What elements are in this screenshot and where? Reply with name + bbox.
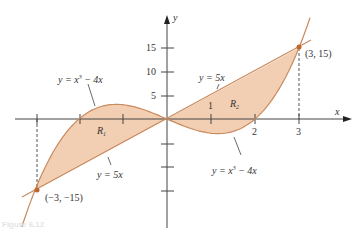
line-label-upper: y = 5x [199,73,225,83]
x-tick-label-3: 3 [296,127,301,137]
point-label-neg3-neg15: (−3, −15) [45,193,83,203]
y-tick-label-5: 5 [151,91,156,101]
x-axis-label: x [335,107,339,117]
region-r1-label: R1 [97,126,106,137]
figure-caption: Figure 6.12 [2,220,44,229]
area-between-curves-figure: y x 1 2 3 5 10 15 y = x3 − 4x y = 5x y =… [0,0,359,231]
x-tick-label-1: 1 [208,101,213,111]
cubic-label-right: y = x3 − 4x [212,165,257,176]
point-label-3-15: (3, 15) [305,49,332,59]
y-axis-label: y [173,13,177,23]
leader-cubic-right [234,137,241,155]
leader-line-upper [217,84,219,89]
y-tick-label-10: 10 [146,67,156,77]
line-label-lower: y = 5x [97,170,123,180]
point-neg3-neg15 [35,188,40,193]
cubic-label-left: y = x3 − 4x [58,74,103,85]
region-r2-fill [167,48,299,134]
y-tick-label-15: 15 [146,43,156,53]
leader-cubic-left [88,84,95,106]
leader-line-lower [108,157,111,165]
point-3-15 [297,45,302,50]
x-tick-label-2: 2 [252,127,257,137]
region-r2-label: R2 [230,99,239,110]
x-axis-arrow-icon [343,116,352,122]
y-axis-arrow-icon [164,15,170,24]
